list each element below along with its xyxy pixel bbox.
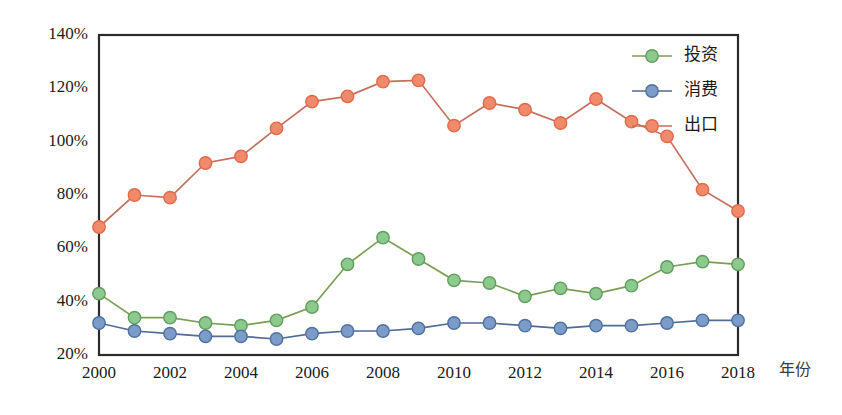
data-point [306, 95, 318, 107]
x-tick-label: 2002 [153, 363, 187, 382]
data-point [377, 231, 389, 243]
data-point [519, 103, 531, 115]
data-point [696, 255, 708, 267]
data-point [306, 301, 318, 313]
data-point [590, 287, 602, 299]
data-point [483, 317, 495, 329]
data-point [128, 189, 140, 201]
data-point [661, 317, 673, 329]
legend-label: 投资 [684, 45, 718, 64]
x-tick-label: 2008 [366, 363, 400, 382]
data-point [377, 325, 389, 337]
data-point [128, 325, 140, 337]
data-point [412, 253, 424, 265]
data-point [448, 317, 460, 329]
data-point [235, 330, 247, 342]
x-tick-label: 2018 [721, 363, 755, 382]
data-point [341, 90, 353, 102]
data-point [696, 314, 708, 326]
data-point [235, 150, 247, 162]
data-point [270, 333, 282, 345]
data-point [93, 221, 105, 233]
data-point [164, 191, 176, 203]
x-axis-title: 年份 [779, 361, 811, 378]
data-point [448, 274, 460, 286]
data-point [93, 317, 105, 329]
x-tick-label: 2010 [437, 363, 471, 382]
data-point [341, 258, 353, 270]
data-point [412, 74, 424, 86]
legend-label: 消费 [684, 80, 718, 99]
legend-marker [646, 85, 658, 97]
data-point [377, 75, 389, 87]
data-point [306, 327, 318, 339]
data-point [519, 290, 531, 302]
y-tick-label: 140% [48, 24, 88, 43]
data-point [93, 287, 105, 299]
data-point [483, 277, 495, 289]
data-point [661, 130, 673, 142]
data-point [625, 279, 637, 291]
data-point [199, 330, 211, 342]
legend-marker [646, 120, 658, 132]
data-point [732, 314, 744, 326]
y-tick-label: 100% [48, 131, 88, 150]
y-tick-label: 60% [57, 237, 88, 256]
data-point [412, 322, 424, 334]
x-tick-label: 2016 [650, 363, 684, 382]
line-chart: 20%40%60%80%100%120%140% 200020022004200… [0, 0, 842, 415]
x-tick-label: 2006 [295, 363, 329, 382]
y-tick-label: 120% [48, 77, 88, 96]
data-point [164, 311, 176, 323]
data-point [732, 205, 744, 217]
data-point [696, 183, 708, 195]
data-point [270, 122, 282, 134]
y-tick-label: 40% [57, 291, 88, 310]
data-point [128, 311, 140, 323]
data-point [554, 282, 566, 294]
x-tick-label: 2004 [224, 363, 259, 382]
data-point [625, 319, 637, 331]
data-point [448, 119, 460, 131]
data-point [590, 319, 602, 331]
data-point [661, 261, 673, 273]
data-point [270, 314, 282, 326]
x-tick-label: 2012 [508, 363, 542, 382]
data-point [732, 258, 744, 270]
x-tick-label: 2000 [82, 363, 116, 382]
chart-container: 20%40%60%80%100%120%140% 200020022004200… [0, 0, 842, 415]
data-point [164, 327, 176, 339]
legend-label: 出口 [684, 115, 718, 134]
x-tick-label: 2014 [579, 363, 614, 382]
data-point [199, 317, 211, 329]
data-point [554, 322, 566, 334]
y-tick-label: 20% [57, 344, 88, 363]
data-point [554, 117, 566, 129]
data-point [341, 325, 353, 337]
data-point [483, 97, 495, 109]
data-point [590, 93, 602, 105]
y-tick-label: 80% [57, 184, 88, 203]
data-point [519, 319, 531, 331]
data-point [199, 157, 211, 169]
legend-marker [646, 50, 658, 62]
